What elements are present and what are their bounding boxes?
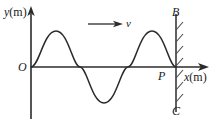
point-p-label: P	[158, 70, 165, 82]
x-axis-unit: (m)	[189, 70, 206, 84]
velocity-label: v	[126, 18, 131, 29]
x-axis-label: x(m)	[184, 71, 207, 83]
wall-bottom-label-c: C	[172, 105, 180, 117]
y-axis-unit: (m)	[9, 5, 26, 19]
diagram-canvas	[0, 0, 216, 125]
y-axis-label: y(m)	[4, 6, 27, 18]
origin-label: O	[18, 61, 27, 73]
wall-hatching	[176, 22, 183, 102]
wave-diagram-figure: y(m) x(m) O P B C v	[0, 0, 216, 125]
wall-top-label-b: B	[172, 6, 179, 18]
